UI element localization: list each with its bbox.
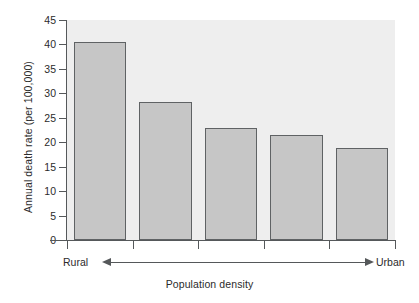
x-axis-tick: [67, 240, 68, 249]
bar: [139, 102, 191, 240]
x-axis-tick: [395, 240, 396, 249]
y-axis-tick-label: 20: [4, 137, 56, 148]
y-axis-tick: [59, 69, 67, 70]
y-axis-tick: [59, 216, 67, 217]
y-axis-tick: [59, 93, 67, 94]
y-axis-line: [66, 20, 67, 241]
arrow-line: [110, 262, 368, 263]
y-axis-tick-label: 30: [4, 88, 56, 99]
y-axis-tick: [59, 167, 67, 168]
y-axis-tick: [59, 44, 67, 45]
x-axis-line: [50, 240, 395, 241]
y-axis-tick: [59, 118, 67, 119]
y-axis-tick-label: 15: [4, 162, 56, 173]
urban-end-label: Urban: [376, 254, 405, 270]
bar: [74, 42, 126, 240]
x-axis-tick: [198, 240, 199, 249]
y-axis-tick-label: 0: [4, 235, 56, 246]
x-axis-tick: [264, 240, 265, 249]
y-axis-tick-label: 40: [4, 39, 56, 50]
y-axis-tick: [59, 240, 67, 241]
rural-end-label: Rural: [63, 254, 88, 270]
y-axis-tick-label: 5: [4, 211, 56, 222]
x-axis-tick: [329, 240, 330, 249]
y-axis-tick: [59, 142, 67, 143]
bar-chart-figure: Annual death rate (per 100,000) 05101520…: [0, 0, 419, 303]
density-gradient-annotation: Rural Urban: [0, 254, 419, 270]
x-axis-title: Population density: [0, 278, 419, 290]
y-axis-tick-label: 10: [4, 186, 56, 197]
bar: [270, 135, 322, 240]
y-axis-tick-label: 25: [4, 113, 56, 124]
arrow-head-right-icon: [365, 258, 374, 266]
y-axis-tick-label: 45: [4, 15, 56, 26]
bar: [205, 128, 257, 240]
x-axis-tick: [133, 240, 134, 249]
y-axis-tick: [59, 20, 67, 21]
y-axis-tick: [59, 191, 67, 192]
bar: [336, 148, 388, 240]
y-axis-tick-label: 35: [4, 64, 56, 75]
